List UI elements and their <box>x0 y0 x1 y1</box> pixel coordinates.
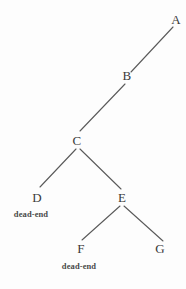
edge-e-g <box>124 206 163 241</box>
node-label-g: G <box>155 242 165 255</box>
node-label-f: F <box>77 242 84 255</box>
edge-e-f <box>82 206 120 240</box>
node-label-e: E <box>118 191 126 204</box>
node-label-d: D <box>32 191 42 204</box>
node-label-c: C <box>73 134 82 147</box>
tree-diagram-canvas: A B C D E F G dead-end dead-end <box>0 0 186 289</box>
annotation-dead-end-d: dead-end <box>14 210 48 219</box>
node-label-b: B <box>123 69 132 82</box>
annotation-dead-end-f: dead-end <box>62 262 96 271</box>
edge-c-e <box>80 149 121 189</box>
edge-c-d <box>40 149 76 187</box>
node-label-a: A <box>171 13 181 26</box>
edge-b-c <box>80 84 125 131</box>
edge-a-b <box>131 27 173 72</box>
